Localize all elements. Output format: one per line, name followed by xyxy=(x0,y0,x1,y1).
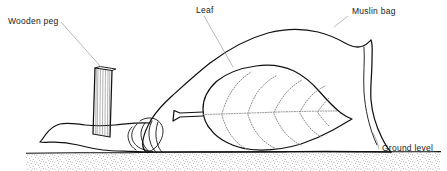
leader-ground-level xyxy=(373,133,379,149)
wooden-peg xyxy=(93,67,116,138)
label-ground-level: Ground level xyxy=(382,143,433,153)
label-leaf: Leaf xyxy=(196,5,214,15)
muslin-bag xyxy=(143,30,391,153)
leader-wooden-peg xyxy=(61,22,101,67)
leaf xyxy=(173,65,352,150)
leader-muslin-bag xyxy=(334,16,348,27)
label-muslin-bag: Muslin bag xyxy=(352,6,396,16)
leader-leaf xyxy=(204,16,233,67)
ground-soil xyxy=(20,150,445,171)
label-wooden-peg: Wooden peg xyxy=(8,16,59,26)
diagram-canvas: Wooden peg Leaf Muslin bag Ground level xyxy=(0,0,447,171)
